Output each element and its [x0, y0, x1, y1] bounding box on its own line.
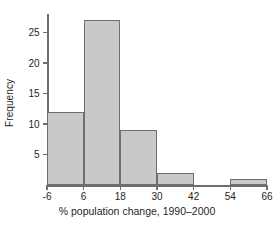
x-axis-tick: 30 [156, 185, 157, 190]
y-axis-tick: 20 [43, 62, 48, 63]
histogram-bar [157, 173, 194, 185]
x-axis-tick: 54 [230, 185, 231, 190]
x-axis-tick: -6 [46, 185, 47, 190]
histogram-bar [120, 130, 157, 185]
histogram-bar [47, 112, 84, 185]
y-axis-tick: 25 [43, 32, 48, 33]
x-axis-tick-label: 30 [151, 191, 162, 202]
x-axis-tick: 66 [266, 185, 267, 190]
x-axis-title: % population change, 1990–2000 [0, 205, 274, 217]
x-axis-tick-label: 66 [261, 191, 272, 202]
histogram-figure: Frequency 510152025 -661830425466 % popu… [0, 0, 274, 228]
x-axis-tick-label: 6 [81, 191, 87, 202]
x-axis-tick: 6 [83, 185, 84, 190]
y-axis-tick-label: 10 [28, 118, 39, 129]
y-axis-tick-label: 25 [28, 27, 39, 38]
x-axis-tick-label: 54 [225, 191, 236, 202]
plot-area: 510152025 -661830425466 [47, 14, 267, 185]
y-axis-title: Frequency [2, 58, 16, 148]
y-axis-tick-label: 15 [28, 88, 39, 99]
x-axis-tick: 18 [120, 185, 121, 190]
y-axis-tick: 15 [43, 93, 48, 94]
y-axis-tick-label: 20 [28, 57, 39, 68]
y-axis-tick-label: 5 [34, 149, 40, 160]
x-axis-tick-label: -6 [43, 191, 52, 202]
x-axis-tick-label: 18 [115, 191, 126, 202]
histogram-bar [84, 20, 121, 185]
histogram-bar [230, 179, 267, 185]
x-axis-tick: 42 [193, 185, 194, 190]
x-axis-tick-label: 42 [188, 191, 199, 202]
